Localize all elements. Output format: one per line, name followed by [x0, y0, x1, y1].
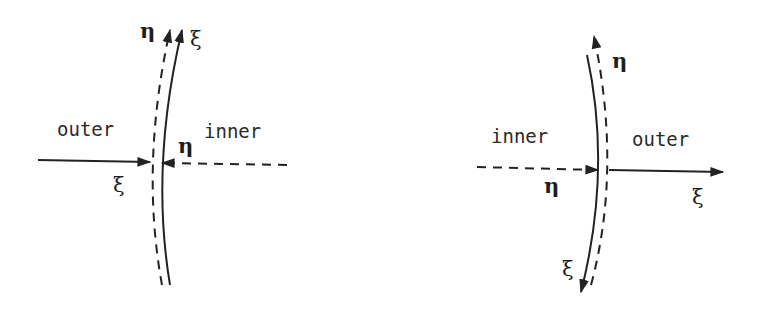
left-xi-top-label: ξ [190, 27, 202, 51]
right-eta-horizontal-label: η [544, 173, 559, 198]
right-outer-label: outer [632, 128, 689, 150]
right-xi-bottom-label: ξ [562, 257, 574, 281]
left-eta-top-label: η [140, 18, 155, 43]
left-boundary-dashed-eta-curve [153, 30, 170, 285]
figure-canvas: outer inner η ξ ξ η inner outer η ξ η ξ [0, 0, 757, 311]
right-horizontal-solid-xi-arrow [609, 170, 723, 172]
right-diagram: inner outer η ξ η ξ [477, 36, 723, 292]
left-horizontal-dashed-eta-arrow [162, 163, 287, 165]
right-inner-label: inner [491, 125, 548, 147]
right-eta-top-label: η [612, 48, 627, 73]
interface-diagram-figure: outer inner η ξ ξ η inner outer η ξ η ξ [0, 0, 757, 311]
left-outer-label: outer [57, 118, 114, 140]
left-xi-horizontal-label: ξ [113, 173, 125, 197]
left-diagram: outer inner η ξ ξ η [38, 18, 287, 285]
left-inner-label: inner [204, 120, 261, 142]
left-eta-horizontal-label: η [178, 133, 193, 158]
right-xi-horizontal-label: ξ [692, 185, 704, 209]
right-boundary-solid-xi-curve [581, 55, 598, 292]
right-horizontal-dashed-eta-arrow [477, 167, 598, 170]
left-horizontal-solid-xi-arrow [38, 160, 150, 162]
